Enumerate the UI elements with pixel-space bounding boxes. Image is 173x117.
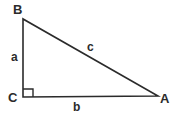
vertex-label-c: C — [8, 91, 17, 104]
vertex-label-a: A — [160, 92, 169, 105]
side-label-a: a — [11, 51, 18, 63]
right-angle-marker-icon — [23, 89, 33, 97]
right-triangle-diagram: B C A a b c — [0, 0, 173, 117]
triangle-drawing-canvas — [0, 0, 173, 117]
side-label-b: b — [73, 101, 80, 113]
triangle-outline — [23, 19, 158, 97]
side-label-c: c — [87, 41, 94, 53]
vertex-label-b: B — [13, 3, 22, 16]
